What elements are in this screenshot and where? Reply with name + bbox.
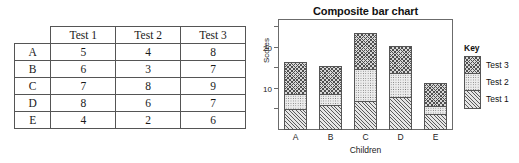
column-header-test-3: Test 3: [181, 27, 246, 44]
table-row: E 4 2 6: [15, 112, 246, 129]
bar-a: [284, 63, 307, 130]
bar-c: [354, 34, 377, 130]
plot-area: Scores 1020 ABCDE: [278, 19, 453, 130]
column-header-test-2: Test 2: [116, 27, 181, 44]
cell-a-test2: 4: [116, 44, 181, 61]
bar-chart-panel: Composite bar chart Scores 1020 ABCDE Ch…: [258, 0, 519, 163]
cell-c-test1: 7: [51, 78, 116, 95]
bar-segment-test-2: [389, 73, 412, 98]
bar-b: [319, 67, 342, 130]
legend-swatch-test-3: [465, 57, 480, 74]
cell-b-test2: 3: [116, 61, 181, 78]
bar-segment-test-1: [319, 105, 342, 130]
bar-segment-test-1: [284, 109, 307, 130]
scores-table: Test 1 Test 2 Test 3 A 5 4 8 B 6 3 7: [14, 26, 246, 129]
legend-label-test-1: Test 1: [486, 94, 509, 104]
row-header-b: B: [15, 61, 51, 78]
bar-segment-test-3: [284, 62, 307, 95]
bar-segment-test-2: [354, 69, 377, 102]
cell-d-test1: 8: [51, 95, 116, 112]
cell-e-test2: 2: [116, 112, 181, 129]
bar-segment-test-1: [354, 101, 377, 130]
table-corner-cell: [15, 27, 51, 44]
legend-key: Key Test 3Test 2Test 1: [462, 19, 518, 130]
legend-title: Key: [464, 43, 480, 53]
x-axis-label: Children: [278, 145, 453, 155]
legend-swatch-test-2: [465, 74, 480, 91]
cell-e-test1: 4: [51, 112, 116, 129]
legend-swatches: [464, 56, 481, 109]
cell-e-test3: 6: [181, 112, 246, 129]
data-table-panel: Test 1 Test 2 Test 3 A 5 4 8 B 6 3 7: [14, 26, 246, 129]
y-axis-tick: 10: [274, 88, 278, 89]
bar-segment-test-3: [389, 46, 412, 75]
legend-swatch-test-1: [465, 91, 480, 108]
x-axis-tick-label-c: C: [354, 132, 377, 142]
x-axis-tick-label-d: D: [389, 132, 412, 142]
y-axis-tick-label: 10: [263, 84, 272, 93]
bar-d: [389, 47, 412, 130]
bar-e: [424, 84, 447, 130]
y-axis-tick: [274, 108, 278, 109]
cell-d-test3: 7: [181, 95, 246, 112]
row-header-a: A: [15, 44, 51, 61]
cell-d-test2: 6: [116, 95, 181, 112]
bar-segment-test-3: [319, 66, 342, 95]
row-header-e: E: [15, 112, 51, 129]
table-header-row: Test 1 Test 2 Test 3: [15, 27, 246, 44]
y-axis-tick: [274, 26, 278, 27]
cell-b-test3: 7: [181, 61, 246, 78]
y-axis-tick-label: 20: [263, 43, 272, 52]
chart-title: Composite bar chart: [278, 5, 453, 17]
cell-c-test3: 9: [181, 78, 246, 95]
bar-segment-test-1: [424, 114, 447, 130]
column-header-test-1: Test 1: [51, 27, 116, 44]
figure-container: Test 1 Test 2 Test 3 A 5 4 8 B 6 3 7: [0, 0, 519, 163]
table-row: D 8 6 7: [15, 95, 246, 112]
table-row: C 7 8 9: [15, 78, 246, 95]
y-axis-tick: 20: [274, 47, 278, 48]
x-axis-tick-label-e: E: [424, 132, 447, 142]
bar-segment-test-2: [284, 94, 307, 110]
legend-label-test-3: Test 3: [486, 60, 509, 70]
table-row: B 6 3 7: [15, 61, 246, 78]
bar-segment-test-3: [354, 33, 377, 70]
bar-segment-test-1: [389, 97, 412, 130]
row-header-d: D: [15, 95, 51, 112]
y-axis-tick: [274, 67, 278, 68]
cell-a-test1: 5: [51, 44, 116, 61]
table-row: A 5 4 8: [15, 44, 246, 61]
cell-a-test3: 8: [181, 44, 246, 61]
x-axis-tick-label-b: B: [319, 132, 342, 142]
bar-segment-test-3: [424, 83, 447, 108]
cell-c-test2: 8: [116, 78, 181, 95]
legend-label-test-2: Test 2: [486, 77, 509, 87]
x-axis-tick-label-a: A: [284, 132, 307, 142]
cell-b-test1: 6: [51, 61, 116, 78]
row-header-c: C: [15, 78, 51, 95]
table-body: A 5 4 8 B 6 3 7 C 7 8 9 D: [15, 44, 246, 129]
table-header: Test 1 Test 2 Test 3: [15, 27, 246, 44]
